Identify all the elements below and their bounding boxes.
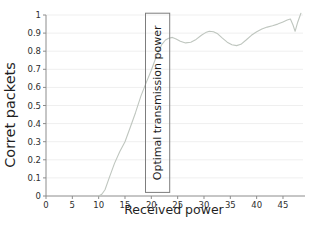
data-line xyxy=(99,13,301,196)
x-tick-label: 5 xyxy=(70,200,75,210)
y-tick-label: 0.9 xyxy=(27,28,41,38)
y-axis-label: Corret packets xyxy=(2,62,18,168)
gridlines xyxy=(46,15,303,178)
y-tick-label: 1 xyxy=(36,10,41,20)
y-tick-label: 0.6 xyxy=(27,82,41,92)
x-tick-label: 45 xyxy=(278,200,289,210)
y-tick-label: 0.1 xyxy=(27,173,41,183)
optimal-power-label: Optimal transmission power xyxy=(151,25,164,180)
plot-svg: 00.10.20.30.40.50.60.70.80.9105101520253… xyxy=(0,0,311,232)
chart: 00.10.20.30.40.50.60.70.80.9105101520253… xyxy=(0,0,311,232)
y-tick-label: 0.5 xyxy=(27,101,41,111)
x-tick-label: 40 xyxy=(251,200,262,210)
y-tick-label: 0.7 xyxy=(27,64,41,74)
x-tick-label: 10 xyxy=(93,200,104,210)
y-tick-label: 0.3 xyxy=(27,137,41,147)
y-tick-label: 0 xyxy=(36,191,41,201)
x-tick-label: 35 xyxy=(225,200,236,210)
x-axis-label: Received power xyxy=(124,202,224,217)
y-tick-label: 0.8 xyxy=(27,46,41,56)
y-tick-label: 0.4 xyxy=(27,119,41,129)
y-tick-label: 0.2 xyxy=(27,155,41,165)
x-tick-label: 0 xyxy=(43,200,48,210)
